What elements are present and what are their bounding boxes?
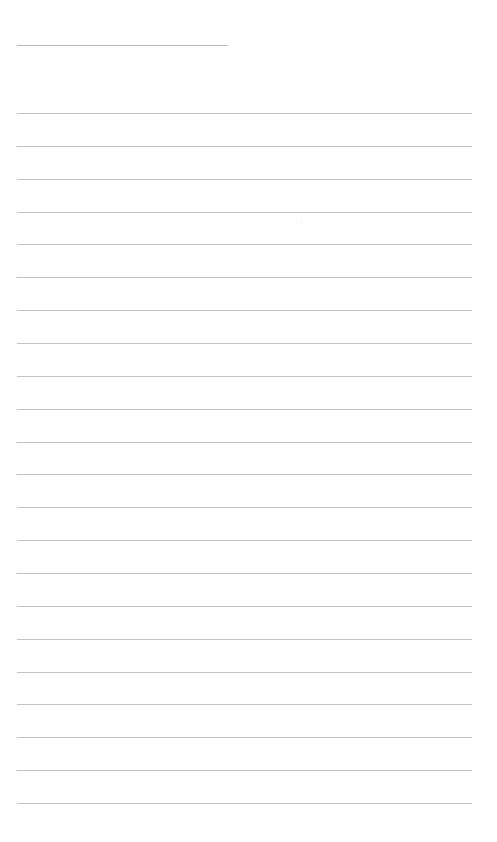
ruled-line	[17, 507, 472, 508]
ruled-line	[17, 310, 472, 311]
ruled-line	[17, 540, 472, 541]
ruled-line	[17, 212, 472, 213]
ruled-line	[17, 376, 472, 377]
ruled-line	[17, 474, 472, 475]
ruled-line	[17, 277, 472, 278]
ruled-line	[17, 146, 472, 147]
ruled-line	[17, 704, 472, 705]
ruled-line	[17, 343, 472, 344]
ruled-line	[17, 179, 472, 180]
paper-speck	[301, 222, 302, 223]
ruled-line	[17, 737, 472, 738]
ruled-line	[17, 113, 472, 114]
ruled-line	[17, 442, 472, 443]
ruled-line	[17, 244, 472, 245]
ruled-line	[17, 409, 472, 410]
ruled-line	[17, 606, 472, 607]
ruled-line	[17, 573, 472, 574]
ruled-line	[17, 672, 472, 673]
lined-page	[0, 0, 497, 842]
header-title-line	[17, 45, 228, 46]
ruled-line	[17, 803, 472, 804]
ruled-line	[17, 639, 472, 640]
ruled-line	[17, 770, 472, 771]
